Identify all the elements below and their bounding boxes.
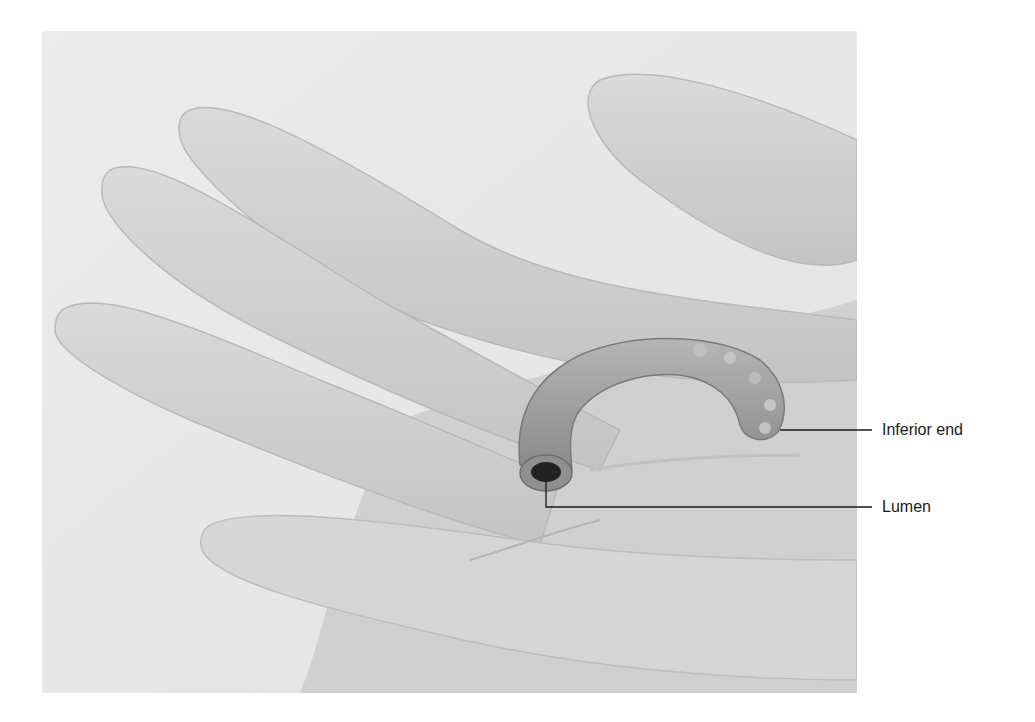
label-lumen: Lumen bbox=[882, 498, 931, 516]
label-inferior-end: Inferior end bbox=[882, 421, 963, 439]
photo-illustration bbox=[42, 31, 857, 693]
labeled-figure: Inferior end Lumen bbox=[0, 0, 1035, 722]
lumen-opening bbox=[531, 462, 561, 482]
specimen-photo bbox=[42, 31, 857, 693]
